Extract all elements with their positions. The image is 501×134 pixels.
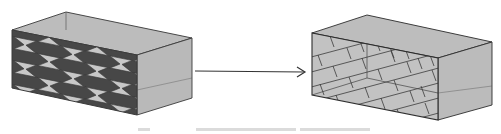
- caption-fragment: [196, 128, 296, 131]
- transform-arrow-icon: [195, 67, 305, 77]
- caption-fragment: [300, 128, 370, 131]
- left-box-hexagon-pattern: [0, 12, 192, 128]
- transformation-figure: [0, 0, 501, 134]
- right-box-brick-pattern: [300, 15, 492, 134]
- caption-fragment: [138, 128, 150, 131]
